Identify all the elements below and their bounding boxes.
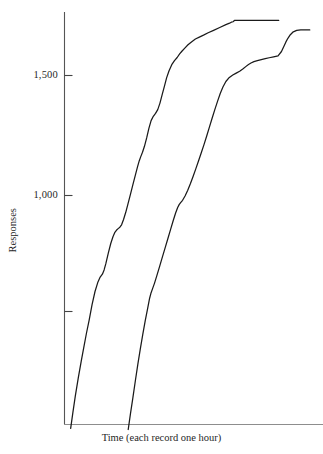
cumulative-curve-record-2 [128,30,310,430]
cumulative-curve-record-1 [71,20,279,428]
series-layer [71,20,310,429]
cumulative-record-chart: 1,500 1,000 Responses Time (each record … [0,0,323,454]
y-tick-label-1500: 1,500 [10,70,58,81]
y-tick-label-1000: 1,000 [10,190,58,201]
x-axis-title: Time (each record one hour) [0,433,323,444]
y-axis-title: Responses [8,200,19,260]
